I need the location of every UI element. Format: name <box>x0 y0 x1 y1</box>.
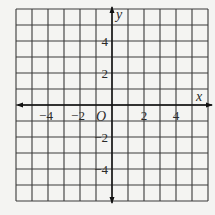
origin-label: O <box>96 109 106 124</box>
y-tick-label: 4 <box>102 34 109 49</box>
y-axis-label: y <box>114 7 123 22</box>
x-tick-label: −4 <box>39 108 53 123</box>
x-axis-left-arrow-icon <box>16 103 23 108</box>
y-tick-label: −4 <box>94 162 108 177</box>
coordinate-plane: x y O −4−224 42−2−4 <box>0 0 215 215</box>
x-tick-label: −2 <box>71 108 85 123</box>
x-axis-right-arrow-icon <box>206 103 213 108</box>
axes <box>16 6 213 204</box>
x-axis-label: x <box>195 89 203 104</box>
x-tick-label: 4 <box>173 108 180 123</box>
x-tick-label: 2 <box>141 108 148 123</box>
y-tick-label: −2 <box>94 130 108 145</box>
y-tick-label: 2 <box>102 66 109 81</box>
